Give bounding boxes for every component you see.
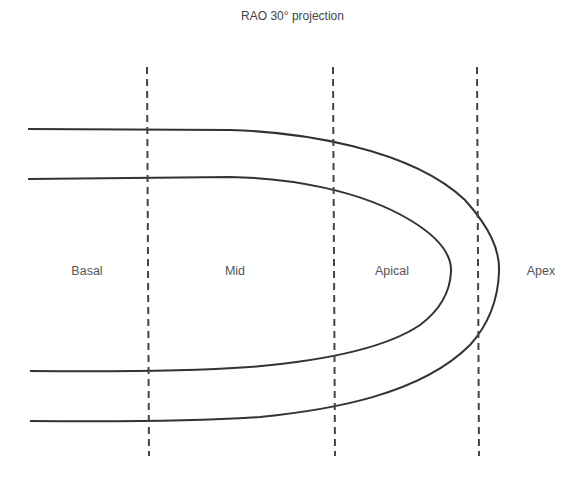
segment-label-apical: Apical — [375, 264, 409, 278]
segment-label-mid: Mid — [225, 264, 245, 278]
divider-basal-mid — [147, 67, 149, 456]
divider-apical-apex — [477, 67, 479, 456]
segment-label-apex: Apex — [527, 264, 556, 278]
divider-mid-apical — [333, 67, 335, 456]
ventricle-diagram: Basal Mid Apical Apex — [0, 0, 585, 477]
segment-label-basal: Basal — [71, 264, 102, 278]
